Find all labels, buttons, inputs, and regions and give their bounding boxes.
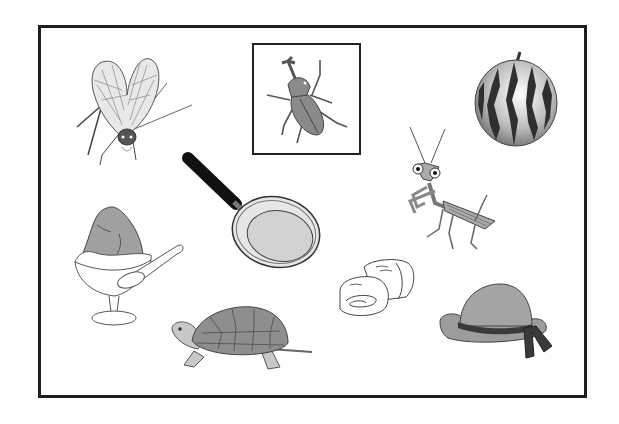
praying-mantis-picture[interactable]: praying mantis	[405, 125, 500, 250]
mantis-icon	[405, 125, 500, 250]
turtle-icon	[170, 305, 315, 375]
hat-icon	[440, 282, 555, 364]
beetle-icon	[262, 55, 352, 145]
cicada-icon	[72, 55, 197, 160]
frying-pan-icon	[180, 152, 325, 270]
frying-pan-picture[interactable]: frying pan	[180, 152, 325, 270]
rolled-omelette-icon	[336, 257, 416, 322]
cicada-picture[interactable]: cicada	[72, 55, 197, 160]
rolled-omelette-picture[interactable]: rolled omelette	[336, 257, 416, 322]
rhinoceros-beetle-picture[interactable]: rhinoceros beetle	[262, 55, 352, 145]
hat-picture[interactable]: hat	[440, 282, 555, 364]
turtle-picture[interactable]: turtle	[170, 305, 315, 375]
